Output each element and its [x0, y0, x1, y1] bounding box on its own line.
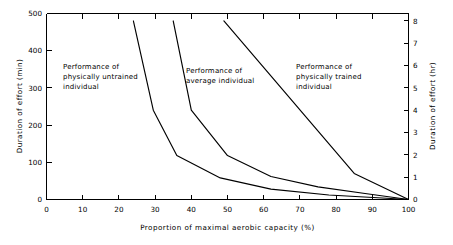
y-axis-title-right: Duration of effort (hr): [428, 62, 437, 150]
annotation-trained-line-3: individual: [296, 83, 332, 91]
y-tick-label-100: 100: [28, 158, 42, 167]
x-tick-label-30: 30: [151, 205, 161, 214]
y2-tick-label-1: 1: [413, 173, 418, 182]
x-tick-label-100: 100: [402, 205, 416, 214]
x-tick-label-50: 50: [223, 205, 233, 214]
x-axis-title: Proportion of maximal aerobic capacity (…: [140, 223, 315, 232]
annotation-trained: Performance of physically trained indivi…: [296, 63, 362, 91]
curve-trained: [224, 21, 409, 200]
y-tick-label-0: 0: [37, 195, 42, 204]
y-tick-label-300: 300: [28, 84, 42, 93]
plot-frame: [47, 14, 409, 200]
y-tick-label-500: 500: [28, 9, 42, 18]
y-axis-left-ticks: [47, 14, 52, 200]
y-tick-labels-left: 0 100 200 300 400 500: [28, 9, 42, 204]
x-tick-label-20: 20: [114, 205, 124, 214]
annotation-untrained: Performance of physically untrained indi…: [63, 63, 138, 91]
annotation-untrained-line-3: individual: [63, 83, 99, 91]
annotation-average-line-1: Performance of: [186, 67, 242, 75]
y2-tick-label-8: 8: [413, 17, 418, 26]
x-tick-label-80: 80: [332, 205, 342, 214]
y2-tick-label-3: 3: [413, 128, 418, 137]
data-curves: [133, 21, 408, 200]
x-tick-label-0: 0: [44, 205, 49, 214]
curve-untrained: [133, 21, 408, 200]
curve-average: [173, 21, 408, 200]
x-tick-label-90: 90: [368, 205, 378, 214]
annotation-average: Performance of average individual: [186, 67, 254, 85]
top-axis-ticks: [83, 14, 373, 19]
y-axis-title-left: Duration of effort (min): [15, 59, 24, 154]
y-tick-labels-right: 0 1 2 3 4 5 6 7 8: [413, 17, 418, 205]
y2-tick-label-5: 5: [413, 84, 418, 93]
y2-tick-label-0: 0: [413, 195, 418, 204]
x-tick-label-70: 70: [295, 205, 305, 214]
x-tick-labels: 0 10 20 30 40 50 60 70 80 90 100: [44, 205, 416, 214]
x-tick-label-60: 60: [259, 205, 269, 214]
annotation-trained-line-2: physically trained: [296, 73, 362, 81]
y2-tick-label-2: 2: [413, 151, 418, 160]
annotation-average-line-2: average individual: [186, 77, 254, 85]
y2-tick-label-7: 7: [413, 39, 418, 48]
y-axis-right-ticks: [404, 21, 409, 200]
y2-tick-label-4: 4: [413, 106, 418, 115]
chart-figure: 0 10 20 30 40 50 60 70 80 90 100 0 100 2…: [0, 0, 453, 245]
y2-tick-label-6: 6: [413, 61, 418, 70]
x-tick-label-10: 10: [78, 205, 88, 214]
annotation-untrained-line-1: Performance of: [63, 63, 119, 71]
y-tick-label-400: 400: [28, 46, 42, 55]
y-tick-label-200: 200: [28, 121, 42, 130]
annotation-untrained-line-2: physically untrained: [63, 73, 138, 81]
annotation-trained-line-1: Performance of: [296, 63, 352, 71]
x-tick-label-40: 40: [187, 205, 197, 214]
